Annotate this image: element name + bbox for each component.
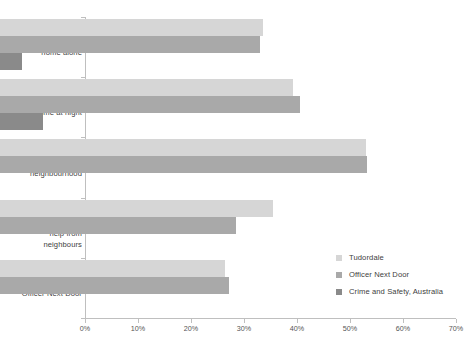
- bar: [0, 139, 366, 156]
- bar-group: [0, 137, 371, 197]
- bar-group: [0, 198, 371, 258]
- x-axis-tick-label: 20%: [176, 324, 206, 333]
- bar-chart: Unsafe at home aloneUnsafe at home at ni…: [0, 0, 474, 350]
- x-axis-tick: [297, 319, 298, 323]
- legend-swatch-icon: [336, 255, 342, 261]
- bar: [0, 113, 43, 130]
- x-axis-tick: [456, 319, 457, 323]
- x-axis-tick: [350, 319, 351, 323]
- x-axis-tick: [138, 319, 139, 323]
- bar: [0, 200, 273, 217]
- bar: [0, 156, 367, 173]
- x-axis-tick-label: 30%: [229, 324, 259, 333]
- x-axis-tick-label: 0%: [70, 324, 100, 333]
- legend-item[interactable]: Officer Next Door: [336, 267, 443, 282]
- legend-swatch-icon: [336, 272, 342, 278]
- legend-swatch-icon: [336, 289, 342, 295]
- x-axis-tick-label: 10%: [123, 324, 153, 333]
- bar: [0, 79, 293, 96]
- legend-label: Crime and Safety, Australia: [349, 287, 443, 296]
- bar-group: [0, 77, 371, 137]
- legend-item[interactable]: Crime and Safety, Australia: [336, 284, 443, 299]
- x-axis-tick: [85, 319, 86, 323]
- x-axis-tick: [403, 319, 404, 323]
- x-axis-line: [85, 318, 456, 319]
- legend-label: Officer Next Door: [349, 270, 409, 279]
- bar: [0, 53, 22, 70]
- bar: [0, 277, 229, 294]
- bar-group: [0, 258, 371, 318]
- x-axis-tick: [244, 319, 245, 323]
- bar: [0, 36, 260, 53]
- chart-legend: TudordaleOfficer Next DoorCrime and Safe…: [336, 250, 443, 301]
- x-axis-tick: [191, 319, 192, 323]
- legend-item[interactable]: Tudordale: [336, 250, 443, 265]
- x-axis-tick-label: 70%: [441, 324, 471, 333]
- bar: [0, 19, 263, 36]
- x-axis-tick-label: 50%: [335, 324, 365, 333]
- bar: [0, 260, 225, 277]
- bar: [0, 96, 300, 113]
- bar: [0, 217, 236, 234]
- x-axis-tick-label: 60%: [388, 324, 418, 333]
- legend-label: Tudordale: [349, 253, 384, 262]
- x-axis-tick-label: 40%: [282, 324, 312, 333]
- bar-group: [0, 17, 371, 77]
